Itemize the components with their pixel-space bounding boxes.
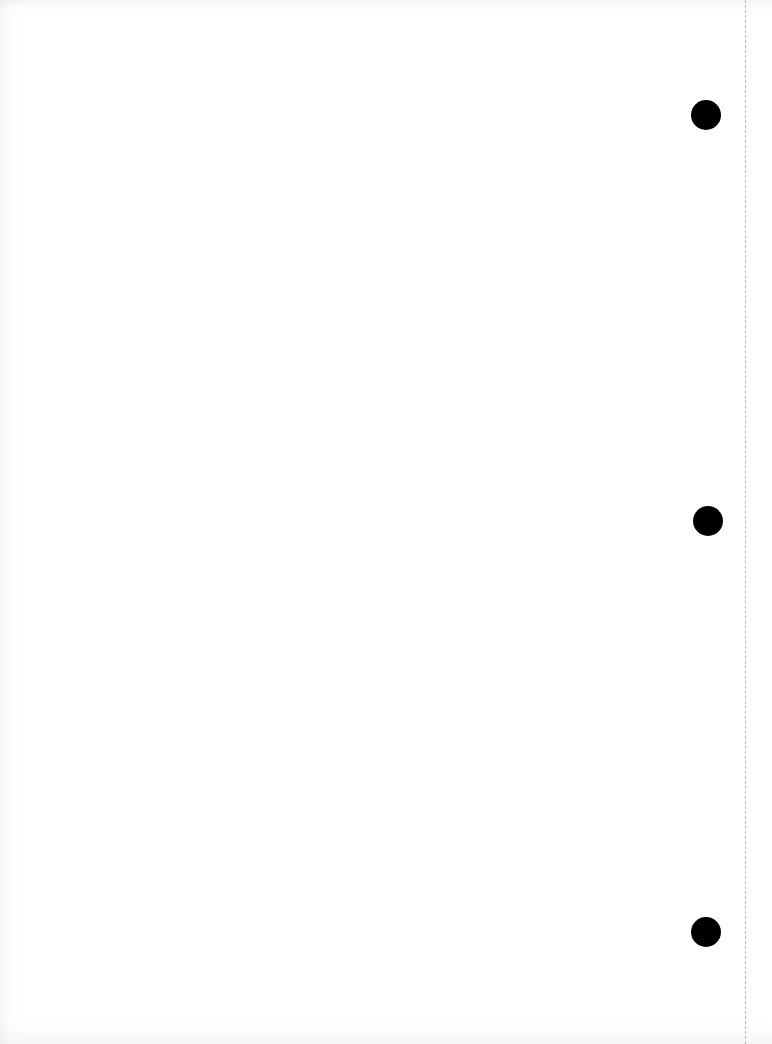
- scanned-page: [0, 0, 772, 1044]
- paper-body: [0, 0, 772, 1044]
- registration-dot: [691, 100, 721, 130]
- registration-dot: [693, 506, 723, 536]
- registration-dot: [691, 917, 721, 947]
